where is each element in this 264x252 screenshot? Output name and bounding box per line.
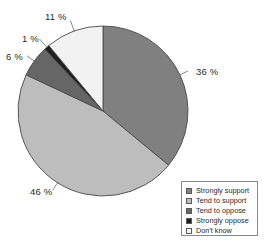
slice-value-label-tend-to-oppose: 6 % xyxy=(6,51,23,62)
chart-legend: Strongly support Tend to support Tend to… xyxy=(181,181,258,236)
legend-item-strongly-oppose: Strongly oppose xyxy=(186,216,254,225)
slice-value-label-strongly-oppose: 1 % xyxy=(22,33,39,44)
legend-swatch-icon xyxy=(186,208,192,214)
leader-line xyxy=(70,21,74,32)
legend-item-dont-know: Don't know xyxy=(186,226,254,235)
leader-line xyxy=(40,39,48,48)
legend-item-label: Tend to support xyxy=(196,196,246,205)
legend-item-label: Strongly support xyxy=(196,186,249,195)
legend-swatch-icon xyxy=(186,198,192,204)
slice-value-label-tend-to-support: 46 % xyxy=(30,186,52,197)
leader-line xyxy=(27,56,35,62)
pie-chart-figure: 36 % 46 % 6 % 1 % 11 % Strongly support … xyxy=(0,0,264,252)
legend-swatch-icon xyxy=(186,228,192,234)
slice-value-label-dont-know: 11 % xyxy=(45,11,67,22)
legend-item-label: Strongly oppose xyxy=(196,216,249,225)
legend-swatch-icon xyxy=(186,218,192,224)
legend-item-tend-to-support: Tend to support xyxy=(186,196,254,205)
legend-item-label: Don't know xyxy=(196,226,232,235)
legend-swatch-icon xyxy=(186,188,192,194)
legend-item-strongly-support: Strongly support xyxy=(186,186,254,195)
pie-slices-group xyxy=(18,26,188,196)
slice-value-label-strongly-support: 36 % xyxy=(196,66,218,77)
leader-line xyxy=(179,71,188,75)
legend-item-tend-to-oppose: Tend to oppose xyxy=(186,206,254,215)
leader-line xyxy=(53,182,58,190)
legend-item-label: Tend to oppose xyxy=(196,206,246,215)
